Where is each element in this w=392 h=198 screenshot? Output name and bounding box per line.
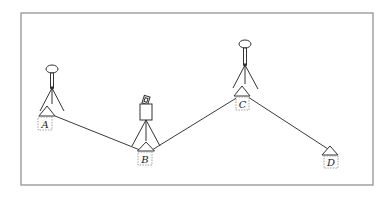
tripod-leg-icon: [132, 120, 146, 146]
prism-pole-icon: [244, 48, 247, 65]
station-b: B: [132, 95, 160, 165]
tripod-leg-icon: [245, 65, 258, 89]
line-c-d: [248, 97, 328, 149]
station-a: A: [38, 65, 64, 130]
prism-icon: [239, 40, 251, 48]
station-d: D: [322, 146, 338, 168]
station-label-d: D: [326, 157, 335, 168]
total-station-icon: [140, 95, 152, 120]
tripod-leg-icon: [233, 65, 245, 88]
station-label-b: B: [140, 154, 148, 165]
diagram-frame: [21, 13, 373, 185]
tripod-leg-icon: [146, 120, 160, 146]
prism-icon: [46, 65, 58, 73]
survey-marker-triangle-icon: [322, 146, 338, 155]
station-label-c: C: [239, 99, 247, 110]
station-c: C: [233, 40, 258, 110]
traverse-lines: [55, 97, 328, 150]
survey-marker-triangle-icon: [234, 86, 250, 96]
line-a-b: [55, 116, 140, 150]
survey-marker-triangle-icon: [138, 142, 155, 151]
survey-traverse-diagram: A B C: [0, 0, 392, 198]
diagram-svg: A B C: [0, 0, 392, 198]
station-label-a: A: [40, 119, 48, 130]
tripod-leg-icon: [52, 88, 64, 111]
line-b-c: [152, 97, 238, 150]
prism-pole-icon: [51, 73, 54, 88]
